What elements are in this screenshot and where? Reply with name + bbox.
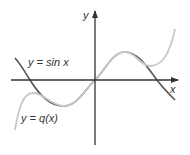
function-graph: y x y = sin x y = q(x): [0, 0, 190, 155]
sin-curve-label: y = sin x: [27, 56, 69, 68]
q-curve-label: y = q(x): [20, 112, 58, 124]
y-axis-label: y: [82, 9, 90, 21]
x-axis-label: x: [169, 83, 176, 95]
